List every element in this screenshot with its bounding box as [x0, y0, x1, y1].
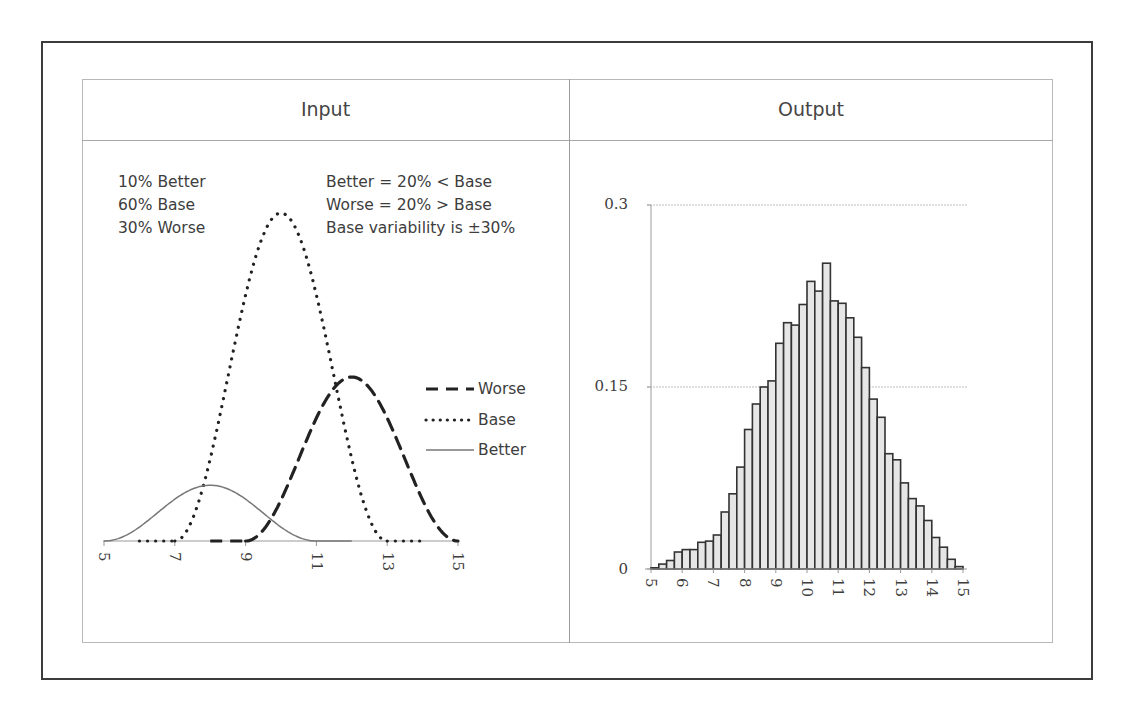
histogram-bar [908, 499, 916, 569]
histogram-bar [924, 521, 932, 570]
charts-canvas [0, 0, 1134, 718]
histogram-bar [940, 547, 948, 569]
histogram-bar [768, 381, 776, 569]
histogram-bar [916, 506, 924, 569]
histogram-bar [862, 368, 870, 569]
histogram-bar [667, 561, 675, 570]
histogram-bar [799, 305, 807, 570]
histogram-bar [932, 538, 940, 570]
input-chart [104, 213, 474, 546]
histogram-bar [877, 417, 885, 569]
histogram-bar [698, 542, 706, 569]
histogram-bar [947, 559, 955, 569]
histogram-bar [745, 430, 753, 570]
histogram-bar [721, 512, 729, 569]
histogram-bar [776, 343, 784, 569]
histogram-bar [690, 550, 698, 569]
histogram-bar [784, 323, 792, 569]
histogram-bar [706, 541, 714, 569]
histogram-bar [830, 301, 838, 569]
histogram-bar [791, 325, 799, 569]
histogram-bar [885, 454, 893, 569]
histogram-bar [838, 303, 846, 569]
histogram-bar [901, 483, 909, 569]
histogram-bar [713, 535, 721, 569]
histogram-bar [846, 318, 854, 569]
histogram-bar [674, 552, 682, 569]
histogram-bar [807, 281, 815, 569]
output-chart [645, 205, 968, 573]
histogram-bar [682, 550, 690, 569]
histogram-bar [854, 337, 862, 569]
curve-worse [246, 377, 458, 541]
histogram-bar [760, 387, 768, 569]
histogram-bar [737, 467, 745, 569]
histogram-bar [752, 404, 760, 569]
histogram-bar [659, 564, 667, 569]
histogram-bar [869, 399, 877, 569]
histogram-bar [815, 291, 823, 569]
histogram-bar [823, 263, 831, 569]
histogram-bar [893, 460, 901, 569]
histogram-bar [729, 494, 737, 569]
